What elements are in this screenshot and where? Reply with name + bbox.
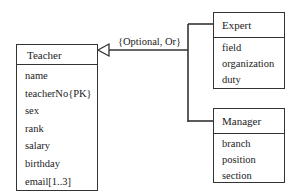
attribute: rank (25, 120, 97, 138)
attribute: field (222, 40, 284, 56)
attribute: name (25, 67, 97, 85)
class-name: Manager (214, 109, 284, 134)
attribute: duty (222, 72, 284, 88)
class-teacher: Teacher name teacherNo{PK} sex rank sala… (16, 44, 98, 191)
attribute: birthday (25, 155, 97, 173)
class-name: Expert (214, 13, 284, 38)
constraint-label: {Optional, Or} (118, 36, 181, 47)
class-manager: Manager branch position section (213, 108, 285, 183)
attribute-list: branch position section (214, 134, 284, 184)
attribute: salary (25, 137, 97, 155)
attribute: position (222, 152, 284, 168)
class-expert: Expert field organization duty (213, 12, 285, 89)
generalization-arrowhead-icon (98, 44, 109, 56)
attribute: email[1..3] (25, 173, 97, 191)
attribute: teacherNo{PK} (25, 85, 97, 103)
class-name: Teacher (17, 45, 97, 65)
attribute: sex (25, 102, 97, 120)
attribute: organization (222, 56, 284, 72)
attribute-list: field organization duty (214, 38, 284, 88)
attribute: section (222, 168, 284, 184)
attribute: branch (222, 136, 284, 152)
attribute-list: name teacherNo{PK} sex rank salary birth… (17, 65, 97, 190)
